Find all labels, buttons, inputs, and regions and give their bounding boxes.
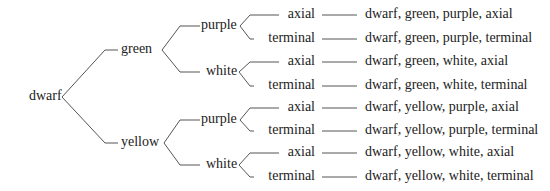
edge-green-white-to-terminal xyxy=(239,72,254,86)
outcome-label: dwarf, green, white, terminal xyxy=(365,77,528,92)
node-yellow-white-axial: axial xyxy=(288,144,315,159)
edge-green-purple-to-axial xyxy=(240,15,279,26)
edge-green-purple-to-terminal xyxy=(240,26,254,39)
edge-yellow-to-white xyxy=(164,143,200,165)
edge-green-white-to-axial xyxy=(239,62,279,72)
edge-green-to-white xyxy=(162,50,200,72)
edge-yellow-white-to-terminal xyxy=(239,165,254,177)
tree-diagram: dwarfgreenpurpleaxialdwarf, green, purpl… xyxy=(0,0,550,191)
node-green-purple: purple xyxy=(201,17,237,32)
edge-root-to-green xyxy=(62,50,118,97)
node-green-white-axial: axial xyxy=(288,53,315,68)
node-yellow-purple: purple xyxy=(201,111,237,126)
node-green-white: white xyxy=(206,63,237,78)
outcome-label: dwarf, green, purple, axial xyxy=(365,6,513,21)
edge-yellow-white-to-axial xyxy=(239,153,279,165)
outcome-label: dwarf, green, purple, terminal xyxy=(365,30,532,45)
edge-yellow-purple-to-axial xyxy=(240,108,279,120)
node-yellow-white: white xyxy=(206,156,237,171)
node-green-white-terminal: terminal xyxy=(268,77,315,92)
outcome-label: dwarf, yellow, purple, axial xyxy=(365,99,519,114)
outcome-label: dwarf, yellow, white, axial xyxy=(365,144,514,159)
edge-yellow-purple-to-terminal xyxy=(240,120,254,131)
node-green-purple-axial: axial xyxy=(288,6,315,21)
outcome-label: dwarf, yellow, purple, terminal xyxy=(365,122,538,137)
node-yellow-white-terminal: terminal xyxy=(268,168,315,183)
edge-yellow-to-purple xyxy=(164,120,200,143)
node-yellow: yellow xyxy=(121,134,160,149)
node-green-purple-terminal: terminal xyxy=(268,30,315,45)
node-yellow-purple-axial: axial xyxy=(288,99,315,114)
node-yellow-purple-terminal: terminal xyxy=(268,122,315,137)
node-green: green xyxy=(121,41,152,56)
tree-labels: dwarfgreenpurpleaxialdwarf, green, purpl… xyxy=(29,6,538,183)
edge-root-to-yellow xyxy=(62,97,118,143)
outcome-label: dwarf, yellow, white, terminal xyxy=(365,168,534,183)
node-root: dwarf xyxy=(29,88,62,103)
outcome-label: dwarf, green, white, axial xyxy=(365,53,508,68)
edge-green-to-purple xyxy=(162,26,200,50)
